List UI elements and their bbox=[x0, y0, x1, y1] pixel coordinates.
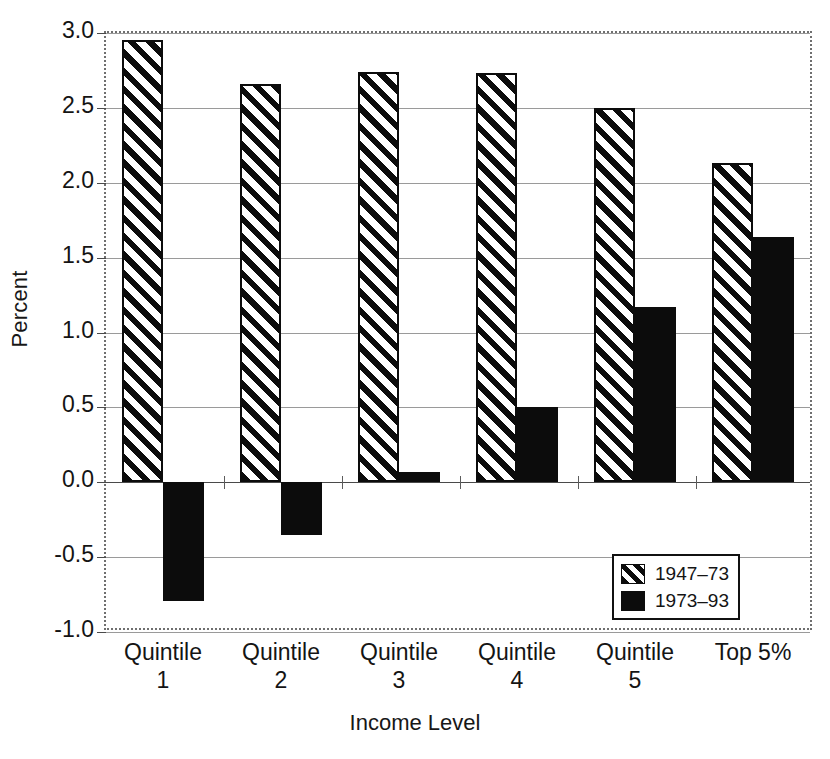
y-tick-mark bbox=[97, 258, 106, 259]
gridline bbox=[106, 108, 810, 109]
x-tick-label-line2: 4 bbox=[458, 666, 576, 694]
x-tick-label-line2: 5 bbox=[576, 666, 694, 694]
y-tick-mark bbox=[97, 333, 106, 334]
x-tick-label-line2: 1 bbox=[104, 666, 222, 694]
gridline bbox=[106, 258, 810, 259]
y-tick-label: 0.5 bbox=[20, 393, 94, 416]
x-tick-label: Quintile1 bbox=[104, 638, 222, 694]
y-tick-label: 0.0 bbox=[20, 468, 94, 491]
legend-swatch-solid bbox=[621, 591, 645, 611]
bar-chart: Percent 3.02.52.01.51.00.50.0-0.5-1.0 19… bbox=[0, 0, 830, 759]
y-tick-mark bbox=[97, 407, 106, 408]
x-tick-label-line2: 2 bbox=[222, 666, 340, 694]
y-tick-label: 1.0 bbox=[20, 319, 94, 342]
x-tick-mark bbox=[460, 476, 461, 489]
bar bbox=[240, 84, 281, 482]
plot-inner bbox=[106, 33, 810, 628]
y-tick-label: 3.0 bbox=[20, 19, 94, 42]
legend-item: 1947–73 bbox=[621, 560, 729, 587]
x-axis-tick-labels: Quintile1Quintile2Quintile3Quintile4Quin… bbox=[104, 638, 812, 704]
bar bbox=[358, 72, 399, 482]
gridline bbox=[106, 407, 810, 408]
x-tick-label: Quintile4 bbox=[458, 638, 576, 694]
x-tick-label-line1: Quintile bbox=[124, 639, 202, 665]
x-tick-label-line1: Quintile bbox=[360, 639, 438, 665]
x-tick-label: Top 5% bbox=[694, 638, 812, 666]
bar bbox=[163, 482, 204, 600]
legend-label: 1973–93 bbox=[655, 590, 729, 612]
legend-item: 1973–93 bbox=[621, 587, 729, 614]
bar bbox=[594, 108, 635, 482]
y-tick-label: 2.5 bbox=[20, 94, 94, 117]
legend-label: 1947–73 bbox=[655, 563, 729, 585]
gridline bbox=[106, 333, 810, 334]
y-tick-mark bbox=[97, 482, 106, 483]
y-tick-mark bbox=[97, 183, 106, 184]
bar bbox=[399, 472, 440, 482]
bar bbox=[122, 40, 163, 482]
x-tick-label-line1: Top 5% bbox=[715, 639, 792, 665]
y-tick-label: -0.5 bbox=[20, 543, 94, 566]
y-tick-mark bbox=[97, 108, 106, 109]
x-tick-label-line1: Quintile bbox=[242, 639, 320, 665]
y-tick-label: 1.5 bbox=[20, 244, 94, 267]
bar bbox=[476, 73, 517, 482]
bar bbox=[712, 163, 753, 482]
bar bbox=[281, 482, 322, 534]
gridline bbox=[106, 632, 810, 633]
x-tick-mark bbox=[342, 476, 343, 489]
zero-baseline bbox=[106, 482, 810, 483]
x-tick-label: Quintile2 bbox=[222, 638, 340, 694]
gridline bbox=[106, 33, 810, 34]
x-tick-label-line1: Quintile bbox=[596, 639, 674, 665]
x-tick-label-line1: Quintile bbox=[478, 639, 556, 665]
y-tick-mark bbox=[97, 33, 106, 34]
x-tick-mark bbox=[696, 476, 697, 489]
x-tick-label: Quintile3 bbox=[340, 638, 458, 694]
y-axis-tick-labels: 3.02.52.01.51.00.50.0-0.5-1.0 bbox=[10, 0, 94, 759]
legend: 1947–731973–93 bbox=[612, 554, 740, 620]
y-tick-mark bbox=[97, 557, 106, 558]
legend-swatch-hatched bbox=[621, 564, 645, 584]
y-tick-label: -1.0 bbox=[20, 618, 94, 641]
x-tick-mark bbox=[578, 476, 579, 489]
bar bbox=[517, 407, 558, 482]
y-tick-label: 2.0 bbox=[20, 169, 94, 192]
y-tick-mark bbox=[97, 632, 106, 633]
x-axis-title: Income Level bbox=[0, 710, 830, 736]
gridline bbox=[106, 183, 810, 184]
plot-area bbox=[104, 31, 812, 630]
x-tick-label-line2: 3 bbox=[340, 666, 458, 694]
x-tick-label: Quintile5 bbox=[576, 638, 694, 694]
bar bbox=[635, 307, 676, 482]
bar bbox=[753, 237, 794, 483]
x-tick-mark bbox=[224, 476, 225, 489]
